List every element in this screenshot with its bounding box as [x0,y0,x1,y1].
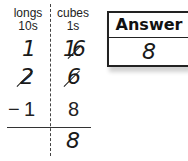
column-unit-longs: 10s [8,20,48,33]
answer-label: Answer [109,13,188,38]
regrouped-cubes-original: 6 [72,36,86,62]
subtraction-operator: − [8,98,20,121]
column-divider [50,4,51,156]
result-cubes-digit: 8 [66,128,80,154]
answer-value: 8 [109,39,188,65]
column-unit-cubes: 1s [53,20,93,33]
answer-box: Answer 8 [107,11,188,67]
column-header-cubes: cubes 1s [53,7,93,33]
subtrahend-cubes-digit: 8 [68,98,79,121]
subtrahend-longs-digit: 1 [24,98,35,121]
regrouped-longs-digit: 1 [22,36,36,62]
column-header-longs: longs 10s [8,7,48,33]
